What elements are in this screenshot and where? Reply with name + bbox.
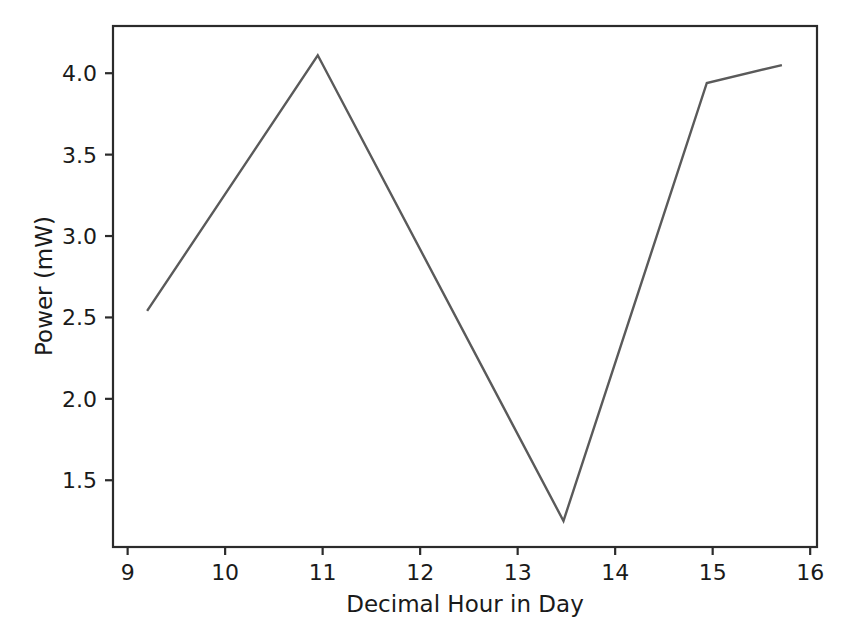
- x-tick-label: 15: [699, 560, 727, 585]
- x-tick-label: 16: [796, 560, 824, 585]
- x-tick-label: 12: [406, 560, 434, 585]
- plot-frame: [113, 26, 817, 547]
- y-tick-label: 2.5: [62, 305, 97, 330]
- y-axis-title: Power (mW): [31, 216, 57, 356]
- y-tick-label: 3.0: [62, 224, 97, 249]
- line-chart: 910111213141516 1.52.02.53.03.54.0 Decim…: [0, 0, 866, 633]
- x-axis-ticks: [128, 547, 811, 555]
- data-series-group: [147, 55, 782, 521]
- y-tick-label: 1.5: [62, 468, 97, 493]
- y-tick-label: 3.5: [62, 143, 97, 168]
- data-line-power: [147, 55, 782, 521]
- y-axis-tick-labels: 1.52.02.53.03.54.0: [62, 61, 97, 493]
- x-axis-tick-labels: 910111213141516: [121, 560, 825, 585]
- x-tick-label: 9: [121, 560, 135, 585]
- x-tick-label: 10: [211, 560, 239, 585]
- x-axis-title: Decimal Hour in Day: [346, 591, 584, 617]
- chart-figure: 910111213141516 1.52.02.53.03.54.0 Decim…: [0, 0, 866, 633]
- x-tick-label: 13: [504, 560, 532, 585]
- y-axis-ticks: [105, 73, 113, 480]
- y-tick-label: 4.0: [62, 61, 97, 86]
- x-tick-label: 14: [601, 560, 629, 585]
- x-tick-label: 11: [309, 560, 337, 585]
- y-tick-label: 2.0: [62, 387, 97, 412]
